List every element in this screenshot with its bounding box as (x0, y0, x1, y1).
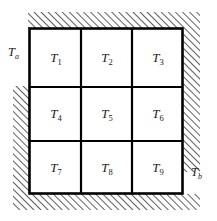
hatch-region-right (183, 12, 200, 172)
hatch-region-left (13, 86, 29, 210)
boundary-label-tb: Tb (191, 165, 202, 181)
boundary-label-ta: Ta (8, 45, 19, 61)
figure-canvas: T1 T2 T3 T4 T5 T6 T7 T8 T9 Ta Tb (0, 0, 217, 221)
heat-conduction-grid-figure: T1 T2 T3 T4 T5 T6 T7 T8 T9 Ta Tb (0, 0, 217, 221)
hatch-region-top (28, 12, 200, 28)
hatch-region-bottom (13, 194, 200, 210)
